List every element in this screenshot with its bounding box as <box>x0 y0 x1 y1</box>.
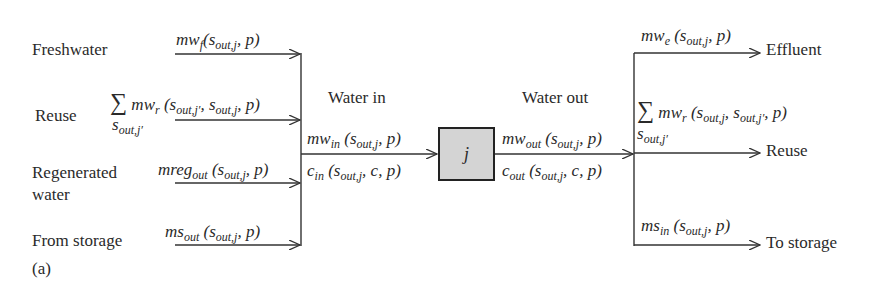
panel-label: (a) <box>32 259 51 279</box>
input-label-reuse: Reuse <box>35 106 77 126</box>
output-label-effluent: Effluent <box>766 40 821 60</box>
output-label-to-storage: To storage <box>766 233 837 253</box>
eq-reuse-in: ∑ mwr (sout,j′, sout,j, p) <box>110 90 260 118</box>
water-in-title: Water in <box>328 88 386 108</box>
input-label-from-storage: From storage <box>32 231 122 251</box>
eq-to-storage: msin (sout,j, p) <box>641 216 730 239</box>
eq-from-storage: msout (sout,j, p) <box>165 222 260 245</box>
eq-reuse-out: ∑ mwr (sout,j, sout,j′, p) <box>637 98 787 126</box>
eq-effluent: mwe (sout,j, p) <box>641 26 731 49</box>
unit-j-box: j <box>438 127 495 181</box>
input-label-regenerated-water: water <box>32 185 70 205</box>
eq-reuse-in-subscript: sout,j′ <box>112 115 143 138</box>
eq-freshwater: mwf(sout,j, p) <box>176 30 260 53</box>
eq-reuse-out-subscript: sout,j′ <box>637 124 668 147</box>
eq-regenerated: mregout (sout,j, p) <box>158 160 269 183</box>
eq-water-in-conc: cin (sout,j, c, p) <box>307 161 401 184</box>
eq-water-out-conc: cout (sout,j, c, p) <box>502 161 602 184</box>
input-label-freshwater: Freshwater <box>32 40 108 60</box>
input-label-regenerated: Regenerated <box>32 163 117 183</box>
output-label-reuse: Reuse <box>766 141 808 161</box>
water-out-title: Water out <box>522 88 588 108</box>
eq-water-in-flow: mwin (sout,j, p) <box>307 129 401 152</box>
unit-label: j <box>464 144 469 165</box>
eq-water-out-flow: mwout (sout,j, p) <box>502 129 602 152</box>
